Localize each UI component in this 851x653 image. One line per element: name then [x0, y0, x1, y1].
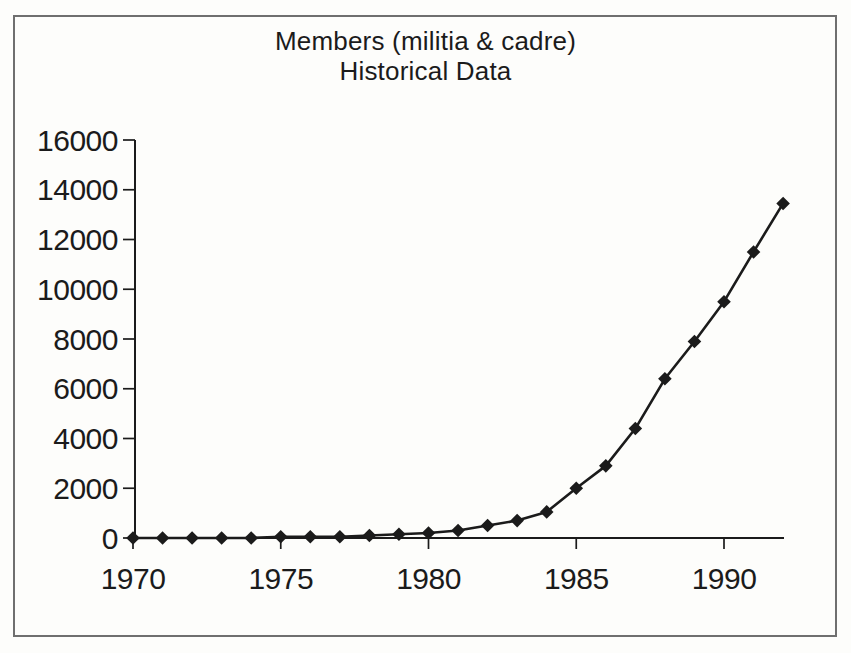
scanned-page: Members (militia & cadre) Historical Dat…: [0, 0, 851, 653]
data-point-marker: [481, 519, 495, 533]
y-tick-label: 6000: [53, 372, 118, 405]
data-point-marker: [274, 530, 288, 544]
y-tick-label: 2000: [53, 472, 118, 505]
data-point-marker: [510, 514, 524, 528]
data-line: [133, 203, 783, 538]
y-tick-label: 8000: [53, 323, 118, 356]
x-tick-label: 1975: [248, 562, 313, 595]
y-tick-label: 16000: [37, 124, 118, 157]
data-point-marker: [185, 531, 199, 545]
line-chart-canvas: 0200040006000800010000120001400016000197…: [0, 0, 851, 653]
data-point-marker: [776, 197, 790, 211]
x-tick-label: 1980: [396, 562, 461, 595]
x-tick-label: 1970: [101, 562, 166, 595]
data-point-marker: [363, 529, 377, 543]
data-point-marker: [747, 245, 761, 259]
data-point-marker: [451, 524, 465, 538]
axis-lines: [135, 140, 784, 538]
data-point-marker: [244, 531, 258, 545]
y-tick-label: 0: [102, 522, 118, 555]
data-point-marker: [156, 531, 170, 545]
x-tick-label: 1990: [692, 562, 757, 595]
data-point-marker: [333, 530, 347, 544]
x-tick-label: 1985: [544, 562, 609, 595]
data-point-marker: [392, 527, 406, 541]
y-tick-label: 4000: [53, 422, 118, 455]
y-tick-label: 14000: [37, 173, 118, 206]
y-tick-label: 10000: [37, 273, 118, 306]
data-point-marker: [215, 531, 229, 545]
y-tick-label: 12000: [37, 223, 118, 256]
data-point-marker: [126, 531, 140, 545]
data-point-marker: [304, 530, 318, 544]
